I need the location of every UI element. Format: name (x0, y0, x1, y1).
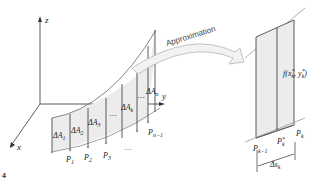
point-label-pn-1: Pn−1 (147, 128, 163, 138)
curtain-surface (51, 30, 160, 153)
z-arrow-icon (38, 16, 42, 22)
y-arrow-icon (159, 102, 165, 106)
point-label-pk-star: P*k (276, 136, 285, 147)
point-label-p2: P2 (83, 153, 92, 163)
point-label-pk: Pk (295, 129, 304, 139)
figure-marker: 4 (2, 172, 6, 179)
z-axis-label: z (44, 15, 49, 25)
x-axis-label: x (16, 142, 21, 152)
area-label-n: ΔAn (145, 87, 159, 97)
arc-length-label: Δsk (269, 160, 281, 170)
point-label-p1: P1 (65, 155, 74, 165)
point-label-p3: P3 (102, 151, 111, 161)
ellipsis-1: ⋯ (109, 111, 117, 120)
point-label-pk-1: Pk−1 (252, 144, 268, 154)
ellipsis-3: ⋯ (124, 145, 132, 154)
ellipsis-2: ⋯ (137, 93, 145, 102)
y-axis-label: y (161, 91, 166, 101)
height-label: f(x*k, y*k) (283, 68, 307, 79)
line-integral-diagram: z x y ΔA1 ΔA2 ΔA3 ΔAk ΔAn ⋯ ⋯ ⋯ P1 P2 P3… (0, 0, 322, 180)
